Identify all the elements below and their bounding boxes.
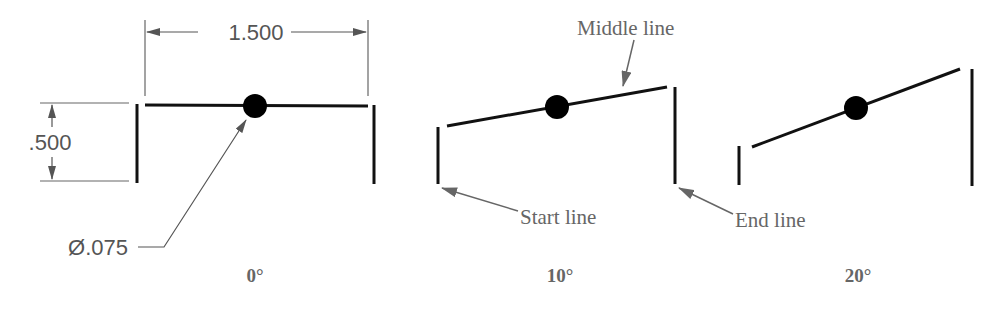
height-dimension: .500 [29,103,129,181]
panel-10-degrees: Middle line Start line End line 10° [438,16,806,286]
angle-label-0: 0° [246,265,263,286]
panel-0-degrees: 1.500 .500 Ø.075 0° [29,20,374,286]
start-line-label: Start line [520,205,596,229]
end-line-label: End line [735,208,806,232]
pivot-dot [545,95,569,119]
end-line-callout: End line [679,188,806,232]
height-dimension-label: .500 [29,130,72,155]
width-dimension: 1.500 [145,20,368,96]
diagram-canvas: 1.500 .500 Ø.075 0° Middle line [0,0,1007,310]
middle-line-label: Middle line [577,16,674,40]
pivot-dot [243,94,267,118]
angle-label-10: 10° [547,265,574,286]
angle-label-20: 20° [845,265,872,286]
pivot-dot [844,96,868,120]
diameter-callout: Ø.075 [68,120,246,260]
middle-line-callout: Middle line [577,16,674,86]
diameter-label: Ø.075 [68,235,128,260]
start-line-callout: Start line [442,188,596,229]
width-dimension-label: 1.500 [228,20,283,45]
panel-20-degrees: 20° [739,69,972,286]
